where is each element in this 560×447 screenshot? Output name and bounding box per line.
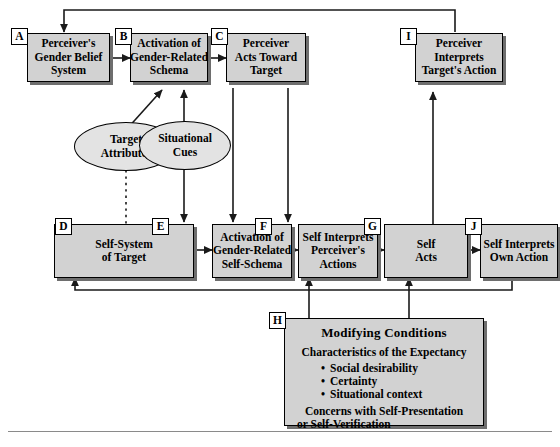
modifying-conditions-footer: Concerns with Self-Presentation or Self-… [295, 405, 473, 431]
modifying-conditions-box[interactable]: Modifying Conditions Characteristics of … [284, 318, 484, 426]
modifying-conditions-subtitle: Characteristics of the Expectancy [295, 346, 473, 358]
list-item: Situational context [295, 388, 473, 401]
node-tag-e: E [152, 218, 169, 235]
node-i-line-3: Target's Action [422, 64, 497, 78]
node-d-line-1: Self-System [95, 238, 153, 252]
node-tag-j: J [465, 218, 482, 235]
oval-situational-cues[interactable]: Situational Cues [139, 121, 231, 170]
node-j-line-2: Own Action [484, 251, 555, 265]
node-tag-b: B [115, 28, 132, 45]
node-d[interactable]: Self-System of Target [54, 224, 194, 278]
modifying-conditions-footer-line-2: or Self-Verification [295, 418, 473, 431]
node-b-line-1: Activation of [130, 37, 208, 51]
node-a-line-1: Perceiver's [35, 37, 103, 51]
diagram-canvas: Perceiver's Gender Belief System A Activ… [0, 0, 560, 447]
node-i[interactable]: Perceiver Interprets Target's Action [415, 33, 503, 82]
oval-situational-cues-line-2: Cues [158, 146, 212, 160]
node-g-line-2: Acts [415, 251, 437, 265]
node-tag-f: F [255, 218, 272, 235]
node-i-line-1: Perceiver [422, 37, 497, 51]
node-a-line-3: System [35, 64, 103, 78]
bottom-divider [8, 431, 552, 432]
node-a[interactable]: Perceiver's Gender Belief System [27, 33, 110, 82]
modifying-conditions-footer-line-1: Concerns with Self-Presentation [295, 405, 473, 418]
node-f-line-1: Self Interprets [302, 231, 373, 245]
list-item: Social desirability [295, 362, 473, 375]
node-b[interactable]: Activation of Gender-Related Schema [130, 33, 208, 82]
modifying-conditions-title: Modifying Conditions [295, 325, 473, 341]
node-b-line-3: Schema [130, 64, 208, 78]
node-f-line-3: Actions [302, 258, 373, 272]
node-tag-d: D [55, 218, 72, 235]
node-g-line-1: Self [415, 238, 437, 252]
node-tag-g: G [364, 218, 381, 235]
node-c-line-1: Perceiver [235, 37, 297, 51]
node-a-line-2: Gender Belief [35, 51, 103, 65]
node-g[interactable]: Self Acts [384, 224, 468, 278]
node-c[interactable]: Perceiver Acts Toward Target [226, 33, 306, 82]
node-f-line-2: Perceiver's [302, 244, 373, 258]
node-tag-h: H [269, 312, 286, 329]
node-c-line-2: Acts Toward [235, 51, 297, 65]
node-tag-a: A [11, 28, 28, 45]
node-b-line-2: Gender-Related [130, 51, 208, 65]
node-e-line-2: Gender-Related [213, 244, 291, 258]
node-c-line-3: Target [235, 64, 297, 78]
modifying-conditions-bullets: Social desirability Certainty Situationa… [295, 362, 473, 401]
node-tag-c: C [211, 28, 228, 45]
node-tag-i: I [400, 28, 417, 45]
oval-situational-cues-line-1: Situational [158, 132, 212, 146]
node-i-line-2: Interprets [422, 51, 497, 65]
node-j[interactable]: Self Interprets Own Action [480, 224, 558, 278]
list-item: Certainty [295, 375, 473, 388]
node-j-line-1: Self Interprets [484, 238, 555, 252]
node-d-line-2: of Target [95, 251, 153, 265]
node-e-line-1: Activation of [213, 231, 291, 245]
node-e[interactable]: Activation of Gender-Related Self-Schema [212, 224, 292, 278]
node-e-line-3: Self-Schema [213, 258, 291, 272]
